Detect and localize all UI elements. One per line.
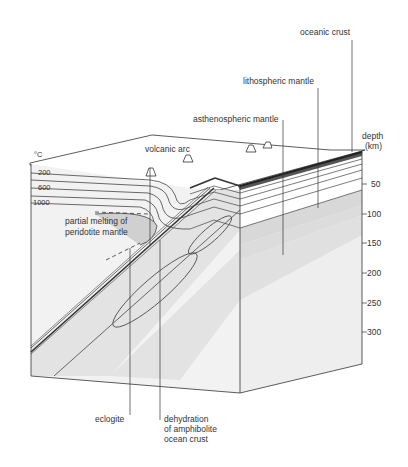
depth-axis-unit: (km)	[365, 141, 382, 151]
depth-tick-100: 100	[367, 209, 381, 219]
isotherm-1000: 1000	[33, 198, 50, 207]
depth-axis-title: depth	[362, 131, 383, 141]
depth-tick-300: 300	[367, 327, 381, 337]
isotherm-600: 600	[38, 183, 51, 192]
subduction-block-diagram	[0, 0, 408, 467]
isotherm-200: 200	[38, 168, 51, 177]
depth-tick-200: 200	[367, 268, 381, 278]
label-dehydration-line3: ocean crust	[164, 434, 208, 444]
label-dehydration-line1: dehydration	[164, 414, 208, 424]
label-oceanic-crust: oceanic crust	[300, 27, 350, 37]
label-asthenospheric-mantle: asthenospheric mantle	[193, 114, 279, 124]
temperature-unit: °C	[34, 150, 42, 159]
label-volcanic-arc: volcanic arc	[145, 144, 190, 154]
label-partial-melting-line2: peridotite mantle	[65, 227, 128, 237]
depth-tick-250: 250	[367, 298, 381, 308]
label-eclogite: eclogite	[95, 414, 124, 424]
depth-tick-150: 150	[367, 238, 381, 248]
label-lithospheric-mantle: lithospheric mantle	[243, 76, 314, 86]
depth-tick-50: 50	[371, 179, 380, 189]
label-dehydration-line2: of amphibolite	[164, 424, 217, 434]
label-partial-melting-line1: partial melting of	[65, 216, 127, 226]
